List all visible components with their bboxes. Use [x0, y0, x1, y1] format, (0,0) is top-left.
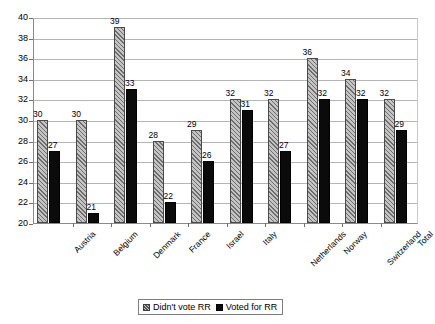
bar-value-label: 32: [264, 89, 273, 98]
bar-voted: [396, 130, 407, 223]
bar-group: 3432: [342, 19, 381, 223]
bar-value-label: 28: [149, 131, 158, 140]
x-axis-tick-mark: [188, 223, 189, 227]
bar-value-label: 32: [226, 89, 235, 98]
legend-label-voted: Voted for RR: [226, 302, 278, 312]
bar-value-label: 32: [318, 89, 327, 98]
y-axis-tick-label: 40: [3, 13, 28, 22]
x-axis-tick-mark: [265, 223, 266, 227]
bar-didnt-vote: [153, 141, 164, 223]
bar-value-label: 32: [380, 89, 389, 98]
x-axis-tick-mark: [150, 223, 151, 227]
x-axis-tick-mark: [111, 223, 112, 227]
bar-value-label: 32: [356, 89, 365, 98]
x-axis-tick-mark: [342, 223, 343, 227]
bar-group: 3632: [304, 19, 343, 223]
y-axis-tick-label: 36: [3, 54, 28, 63]
bar-group: 2926: [188, 19, 227, 223]
bar-didnt-vote: [384, 99, 395, 223]
y-axis-tick-label: 22: [3, 198, 28, 207]
y-axis-tick-label: 20: [3, 219, 28, 228]
bar-value-label: 26: [202, 151, 211, 160]
bar-group: 3231: [227, 19, 266, 223]
bar-value-label: 27: [279, 141, 288, 150]
bar-voted: [357, 99, 368, 223]
bar-didnt-vote: [345, 79, 356, 223]
legend-swatch-solid-icon: [216, 304, 223, 311]
x-axis-tick-mark: [73, 223, 74, 227]
y-axis-tick-label: 34: [3, 75, 28, 84]
bar-didnt-vote: [37, 120, 48, 223]
plot-area: 3027302139332822292632313227363234323229: [33, 18, 418, 224]
legend-item-voted: Voted for RR: [216, 302, 278, 312]
bar-group: 2822: [150, 19, 189, 223]
bar-value-label: 29: [395, 120, 404, 129]
bar-didnt-vote: [230, 99, 241, 223]
x-axis-tick-mark: [304, 223, 305, 227]
y-axis-tick-label: 30: [3, 116, 28, 125]
legend-label-didnt-vote: Didn't vote RR: [153, 302, 211, 312]
bar-group: 3021: [73, 19, 112, 223]
bar-didnt-vote: [76, 120, 87, 223]
bar-group: 3229: [381, 19, 420, 223]
bar-value-label: 33: [125, 79, 134, 88]
bar-value-label: 31: [241, 100, 250, 109]
bar-value-label: 36: [303, 48, 312, 57]
bar-voted: [280, 151, 291, 223]
y-axis-tick-label: 28: [3, 137, 28, 146]
bar-group: 3227: [265, 19, 304, 223]
bar-value-label: 22: [164, 192, 173, 201]
y-axis-tick-label: 26: [3, 157, 28, 166]
x-axis-tick-mark: [381, 223, 382, 227]
bar-value-label: 21: [87, 203, 96, 212]
bar-value-label: 30: [72, 110, 81, 119]
bar-group: 3027: [34, 19, 73, 223]
bar-voted: [242, 110, 253, 223]
bar-voted: [319, 99, 330, 223]
bar-value-label: 27: [48, 141, 57, 150]
y-axis-tick-label: 32: [3, 95, 28, 104]
bar-group: 3933: [111, 19, 150, 223]
bar-value-label: 39: [110, 17, 119, 26]
bar-voted: [165, 202, 176, 223]
bar-voted: [49, 151, 60, 223]
bar-value-label: 30: [33, 110, 42, 119]
x-axis-tick-mark: [227, 223, 228, 227]
legend-item-didnt-vote: Didn't vote RR: [143, 302, 211, 312]
bar-value-label: 34: [341, 69, 350, 78]
chart-legend: Didn't vote RR Voted for RR: [138, 299, 283, 315]
y-axis-tick-mark: [29, 224, 33, 225]
bar-didnt-vote: [114, 27, 125, 223]
bar-voted: [203, 161, 214, 223]
bar-didnt-vote: [268, 99, 279, 223]
bar-didnt-vote: [191, 130, 202, 223]
bar-voted: [126, 89, 137, 223]
bar-didnt-vote: [307, 58, 318, 223]
y-axis-tick-label: 38: [3, 34, 28, 43]
bar-value-label: 29: [187, 120, 196, 129]
y-axis-tick-label: 24: [3, 178, 28, 187]
bar-voted: [88, 213, 99, 223]
legend-swatch-hatched-icon: [143, 304, 150, 311]
